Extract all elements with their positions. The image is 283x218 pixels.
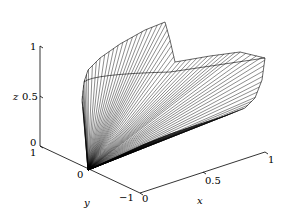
x-tick-1: 1 xyxy=(268,154,274,165)
z-axis xyxy=(40,46,43,148)
z-axis-label: z xyxy=(12,91,19,102)
y-tick-1: 1 xyxy=(30,147,36,158)
y-axis-label: y xyxy=(83,197,90,208)
x-axis xyxy=(140,152,268,195)
x-axis-label: x xyxy=(197,195,203,206)
x-tick-0: 0 xyxy=(142,193,148,204)
y-tick-neg1: −1 xyxy=(119,192,134,203)
wireframe-surface xyxy=(82,23,265,170)
surface-plot: 1 0.5 0 1 0 −1 0 0.5 1 z y x xyxy=(0,0,283,218)
y-tick-0: 0 xyxy=(77,169,83,180)
z-tick-1: 1 xyxy=(30,41,36,52)
z-tick-0.5: 0.5 xyxy=(22,91,38,102)
x-tick-0.5: 0.5 xyxy=(205,175,221,186)
